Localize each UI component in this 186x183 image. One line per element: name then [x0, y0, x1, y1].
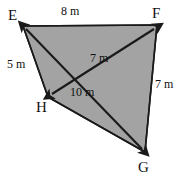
measure-label-EF: 8 m — [61, 5, 79, 17]
measure-label-FG: 7 m — [155, 78, 173, 90]
vertex-label-F: F — [152, 6, 160, 21]
edge-EF — [23, 25, 157, 26]
measure-label-FH: 7 m — [90, 52, 108, 64]
geometry-figure: E F G H 8 m 5 m 7 m 7 m 10 m — [0, 0, 186, 183]
measure-label-EG: 10 m — [70, 86, 94, 98]
vertex-label-G: G — [138, 160, 149, 175]
vertex-label-H: H — [36, 100, 47, 115]
measure-label-EH: 5 m — [7, 58, 25, 70]
vertex-label-E: E — [8, 8, 17, 23]
